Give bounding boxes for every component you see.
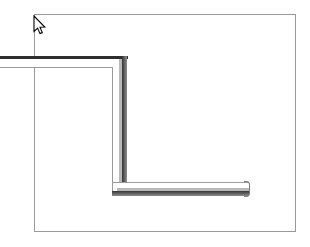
drawing-frame [34, 14, 296, 232]
arrow-cursor-icon [33, 15, 47, 36]
drawing-canvas[interactable] [0, 0, 310, 247]
